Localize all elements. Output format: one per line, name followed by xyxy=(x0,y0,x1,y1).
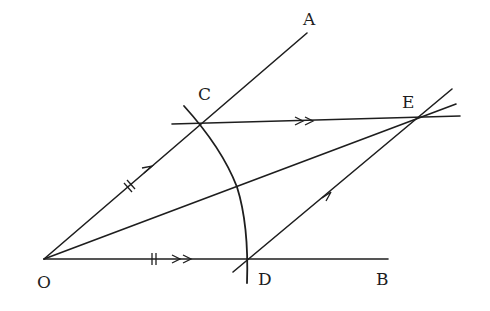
diagram-canvas: O A B C D E xyxy=(0,0,490,311)
diagonal-oe xyxy=(44,104,456,259)
label-d: D xyxy=(258,269,272,289)
label-e: E xyxy=(402,92,414,112)
label-a: A xyxy=(302,9,316,29)
label-o: O xyxy=(37,272,51,292)
label-c: C xyxy=(198,84,211,104)
line-de xyxy=(233,89,452,272)
geometry-figure: O A B C D E xyxy=(0,0,490,311)
line-ce xyxy=(172,116,460,124)
label-b: B xyxy=(376,269,389,289)
ray-oa xyxy=(44,33,307,259)
